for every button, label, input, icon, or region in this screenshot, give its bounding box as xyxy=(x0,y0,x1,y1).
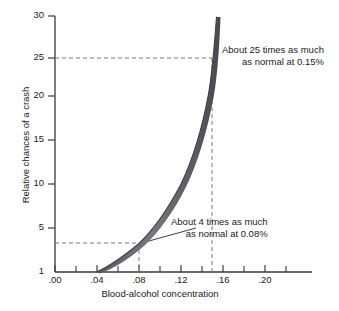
x-tick-label-04: .04 xyxy=(84,275,110,285)
chart-figure: 30 25 20 15 10 5 1 .00 .04 .08 .12 .16 .… xyxy=(0,0,339,311)
x-tick-label-08: .08 xyxy=(126,275,152,285)
annotation-25x-line2: as normal at 0.15% xyxy=(222,56,324,68)
x-tick-label-16: .16 xyxy=(210,275,236,285)
y-axis-title: Relative chances of a crash xyxy=(21,85,31,205)
annotation-4x-line1: About 4 times as much xyxy=(171,216,268,228)
x-tick-label-00: .00 xyxy=(42,275,68,285)
x-tick-label-20: .20 xyxy=(252,275,278,285)
x-axis-title: Blood-alcohol concentration xyxy=(55,289,265,299)
y-axis-ticks xyxy=(48,16,55,228)
y-tick-label-5: 5 xyxy=(22,222,44,232)
annotation-4x-line2: as normal at 0.08% xyxy=(171,228,268,240)
annotation-25x-line1: About 25 times as much xyxy=(222,44,324,56)
y-tick-label-30: 30 xyxy=(22,10,44,20)
annotation-4x: About 4 times as much as normal at 0.08% xyxy=(171,216,268,240)
y-tick-label-1: 1 xyxy=(22,266,44,276)
y-tick-label-25: 25 xyxy=(22,52,44,62)
annotation-25x: About 25 times as much as normal at 0.15… xyxy=(222,44,324,68)
x-tick-label-12: .12 xyxy=(168,275,194,285)
